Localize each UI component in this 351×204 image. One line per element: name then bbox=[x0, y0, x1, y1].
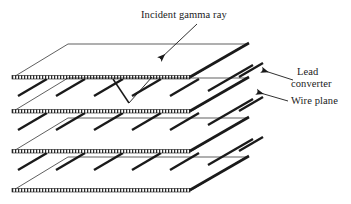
wire-group-2 bbox=[18, 97, 263, 130]
label-incident-gamma-ray: Incident gamma ray bbox=[141, 9, 227, 21]
plate-1 bbox=[12, 43, 249, 79]
label-lead-converter-line1: Lead bbox=[297, 66, 332, 78]
label-lead-converter-line2: converter bbox=[291, 78, 332, 90]
label-lead-converter: Lead converter bbox=[297, 66, 332, 89]
incident-gamma-ray-arrow bbox=[160, 24, 197, 59]
layer-2 bbox=[12, 77, 263, 130]
layer-1 bbox=[12, 43, 263, 96]
label-wire-plane: Wire plane bbox=[291, 95, 338, 107]
plate-stack bbox=[12, 24, 263, 192]
plate-2 bbox=[12, 77, 249, 113]
diagram-canvas: Incident gamma ray Lead converter Wire p… bbox=[0, 0, 351, 204]
layer-3 bbox=[12, 117, 263, 170]
